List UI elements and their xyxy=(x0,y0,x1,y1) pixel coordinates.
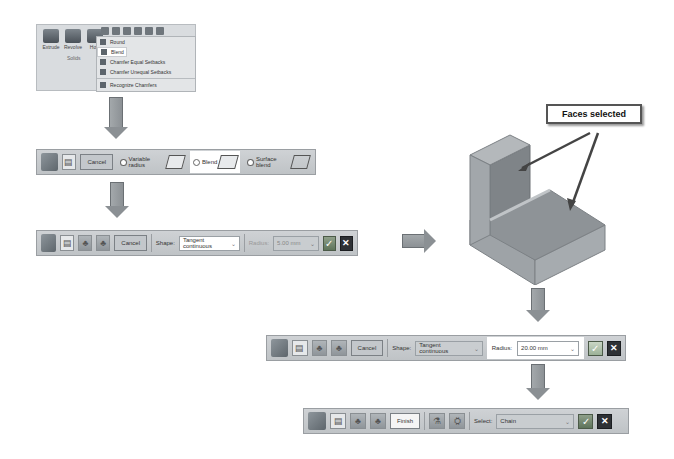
accept-button[interactable]: ✓ xyxy=(323,236,336,251)
revolve-icon xyxy=(65,29,81,43)
variable-radius-option[interactable]: Variable radius xyxy=(117,151,186,173)
menu-item-recognize-chamfers[interactable]: Recognize Chamfers xyxy=(97,80,195,90)
blend-icon xyxy=(101,49,107,55)
revolve-button[interactable]: Revolve xyxy=(62,29,84,50)
surface-blend-option[interactable]: Surface blend xyxy=(244,151,311,173)
shape-dropdown[interactable]: Tangent continuous⌄ xyxy=(415,341,482,356)
blend-radius-toolbar: ▤ ♣ ♣ Cancel Shape: Tangent continuous⌄ … xyxy=(266,335,626,361)
group-label: Solids xyxy=(67,55,81,61)
options-icon[interactable]: ▤ xyxy=(60,235,74,251)
variable-radius-icon xyxy=(165,155,185,169)
recognize-chamfers-icon xyxy=(100,82,106,88)
options-icon[interactable]: ▤ xyxy=(292,340,307,356)
close-button[interactable]: ✕ xyxy=(340,236,353,251)
flow-arrow-down-4 xyxy=(526,364,550,400)
divider xyxy=(151,234,152,252)
preview-icon[interactable]: ⛭ xyxy=(449,413,465,429)
thin-wall-icon[interactable] xyxy=(123,27,131,35)
chamfer-unequal-icon xyxy=(100,69,106,75)
chevron-down-icon: ⌄ xyxy=(474,345,479,352)
faces-selected-callout: Faces selected xyxy=(546,104,642,124)
chevron-down-icon: ⌄ xyxy=(231,240,236,247)
blend-select-toolbar: ▤ ♣ ♣ Finish ⚗ ⛭ Select: Chain⌄ ✓ ✕ xyxy=(303,408,629,434)
select-edges-icon[interactable]: ♣ xyxy=(331,340,346,356)
menu-item-chamfer-unequal[interactable]: Chamfer Unequal Setbacks xyxy=(97,67,195,77)
shape-dropdown[interactable]: Tangent continuous⌄ xyxy=(179,236,240,251)
chamfer-equal-icon xyxy=(100,59,106,65)
radio-icon xyxy=(120,159,127,166)
accept-button[interactable]: ✓ xyxy=(588,341,602,356)
extrude-icon xyxy=(43,29,59,43)
select-edges-icon[interactable]: ♣ xyxy=(370,413,386,429)
chevron-down-icon: ⌄ xyxy=(310,240,315,247)
flow-arrow-down-3 xyxy=(526,288,550,322)
select-edges-icon[interactable]: ♣ xyxy=(96,235,110,251)
cancel-button[interactable]: Cancel xyxy=(351,340,384,356)
options-icon[interactable]: ▤ xyxy=(330,413,346,429)
radius-label: Radius: xyxy=(492,345,512,351)
blend-type-toolbar: ▤ Cancel Variable radius Blend Surface b… xyxy=(36,149,316,175)
select-dropdown[interactable]: Chain⌄ xyxy=(496,414,574,429)
finish-button[interactable]: Finish xyxy=(390,413,420,429)
surface-blend-icon xyxy=(290,155,310,169)
flow-arrow-right xyxy=(402,229,436,253)
step-icon[interactable] xyxy=(308,412,326,430)
flow-arrow-down-2 xyxy=(105,182,129,218)
radius-label: Radius: xyxy=(249,240,269,246)
shape-label: Shape: xyxy=(392,345,411,351)
more-icon[interactable] xyxy=(156,27,164,35)
radio-icon xyxy=(247,159,254,166)
step-icon[interactable] xyxy=(41,234,56,252)
select-label: Select: xyxy=(474,418,492,424)
select-faces-icon[interactable]: ♣ xyxy=(312,340,327,356)
close-button[interactable]: ✕ xyxy=(597,414,612,429)
select-faces-icon[interactable]: ♣ xyxy=(78,235,92,251)
divider xyxy=(387,339,388,357)
divider xyxy=(424,412,425,430)
round-dropdown-menu: Round Blend Chamfer Equal Setbacks Chamf… xyxy=(96,36,196,92)
step-icon[interactable] xyxy=(41,153,58,171)
divider xyxy=(244,234,245,252)
select-faces-icon[interactable]: ♣ xyxy=(350,413,366,429)
chevron-down-icon: ⌄ xyxy=(565,418,570,425)
ribbon-top-icons xyxy=(101,27,164,35)
options-icon[interactable]: ▤ xyxy=(62,154,77,170)
model-l-bracket xyxy=(460,125,630,285)
flow-arrow-down-1 xyxy=(104,97,128,139)
blend-step-icon[interactable]: ⚗ xyxy=(429,413,445,429)
draft-icon[interactable] xyxy=(112,27,120,35)
accept-button[interactable]: ✓ xyxy=(578,414,593,429)
shape-label: Shape: xyxy=(156,240,175,246)
menu-item-chamfer-equal[interactable]: Chamfer Equal Setbacks xyxy=(97,57,195,67)
extrude-button[interactable]: Extrude xyxy=(40,29,62,50)
mirror-icon[interactable] xyxy=(145,27,153,35)
radius-input[interactable]: 5.00 mm⌄ xyxy=(273,236,319,251)
round-dropdown-icon[interactable] xyxy=(101,27,109,35)
menu-divider xyxy=(97,78,195,79)
cancel-button[interactable]: Cancel xyxy=(114,235,147,251)
chevron-down-icon: ⌄ xyxy=(570,345,575,352)
radius-field-group: Radius: 20.00 mm⌄ xyxy=(487,337,584,359)
divider xyxy=(469,412,470,430)
blend-shape-icon xyxy=(218,155,240,169)
blend-option[interactable]: Blend xyxy=(190,151,240,173)
pattern-icon[interactable] xyxy=(134,27,142,35)
radio-icon xyxy=(193,159,200,166)
round-icon xyxy=(100,39,106,45)
step-icon[interactable] xyxy=(271,339,288,357)
cancel-button[interactable]: Cancel xyxy=(80,154,113,170)
close-button[interactable]: ✕ xyxy=(607,341,621,356)
blend-shape-toolbar: ▤ ♣ ♣ Cancel Shape: Tangent continuous⌄ … xyxy=(36,230,358,256)
radius-input[interactable]: 20.00 mm⌄ xyxy=(517,341,579,356)
menu-item-round[interactable]: Round xyxy=(97,37,195,47)
menu-item-blend[interactable]: Blend xyxy=(97,47,127,57)
